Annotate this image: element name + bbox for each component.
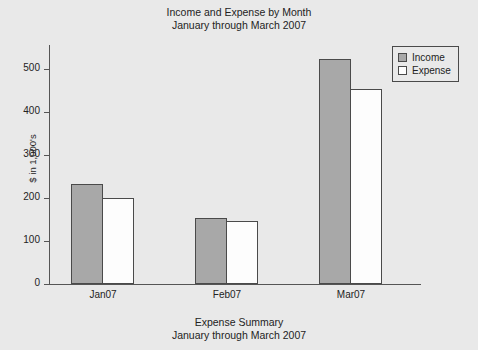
y-tick-label-300: 300 xyxy=(23,148,40,159)
chart-title-line-2: January through March 2007 xyxy=(0,19,478,32)
legend-swatch-income-icon xyxy=(398,53,407,62)
chart-figure: Income and Expense by Month January thro… xyxy=(0,0,478,350)
chart-title-line-1: Income and Expense by Month xyxy=(0,6,478,19)
chart-caption-line-1: Expense Summary xyxy=(0,316,478,329)
legend-swatch-expense-icon xyxy=(398,66,407,75)
bar-income-feb07[interactable] xyxy=(195,218,227,284)
x-tick-label-feb07: Feb07 xyxy=(179,289,275,300)
y-tick-300: 300 xyxy=(44,155,49,156)
y-tick-100: 100 xyxy=(44,241,49,242)
legend-label-income: Income xyxy=(412,51,445,64)
y-tick-400: 400 xyxy=(44,112,49,113)
y-tick-label-100: 100 xyxy=(23,234,40,245)
chart-caption-line-2: January through March 2007 xyxy=(0,329,478,342)
bar-expense-mar07[interactable] xyxy=(350,89,382,284)
chart-caption: Expense Summary January through March 20… xyxy=(0,316,478,342)
legend-item-income[interactable]: Income xyxy=(398,51,451,64)
x-tick-label-mar07: Mar07 xyxy=(303,289,399,300)
y-tick-label-200: 200 xyxy=(23,191,40,202)
y-tick-label-500: 500 xyxy=(23,62,40,73)
bar-expense-feb07[interactable] xyxy=(226,221,258,284)
x-tick-label-jan07: Jan07 xyxy=(55,289,151,300)
y-tick-label-400: 400 xyxy=(23,105,40,116)
y-tick-500: 500 xyxy=(44,69,49,70)
y-tick-0: 0 xyxy=(44,284,49,285)
bar-income-jan07[interactable] xyxy=(71,184,103,284)
x-axis-line xyxy=(49,284,421,285)
bar-expense-jan07[interactable] xyxy=(102,198,134,284)
chart-title: Income and Expense by Month January thro… xyxy=(0,6,478,32)
bar-income-mar07[interactable] xyxy=(319,59,351,284)
chart-legend: Income Expense xyxy=(392,46,459,82)
legend-label-expense: Expense xyxy=(412,64,451,77)
y-tick-200: 200 xyxy=(44,198,49,199)
y-axis-line xyxy=(49,45,50,285)
y-tick-label-0: 0 xyxy=(34,277,40,288)
legend-item-expense[interactable]: Expense xyxy=(398,64,451,77)
plot-area: $ in 1,000's 0 100 200 300 400 500 Jan07 xyxy=(49,45,421,285)
